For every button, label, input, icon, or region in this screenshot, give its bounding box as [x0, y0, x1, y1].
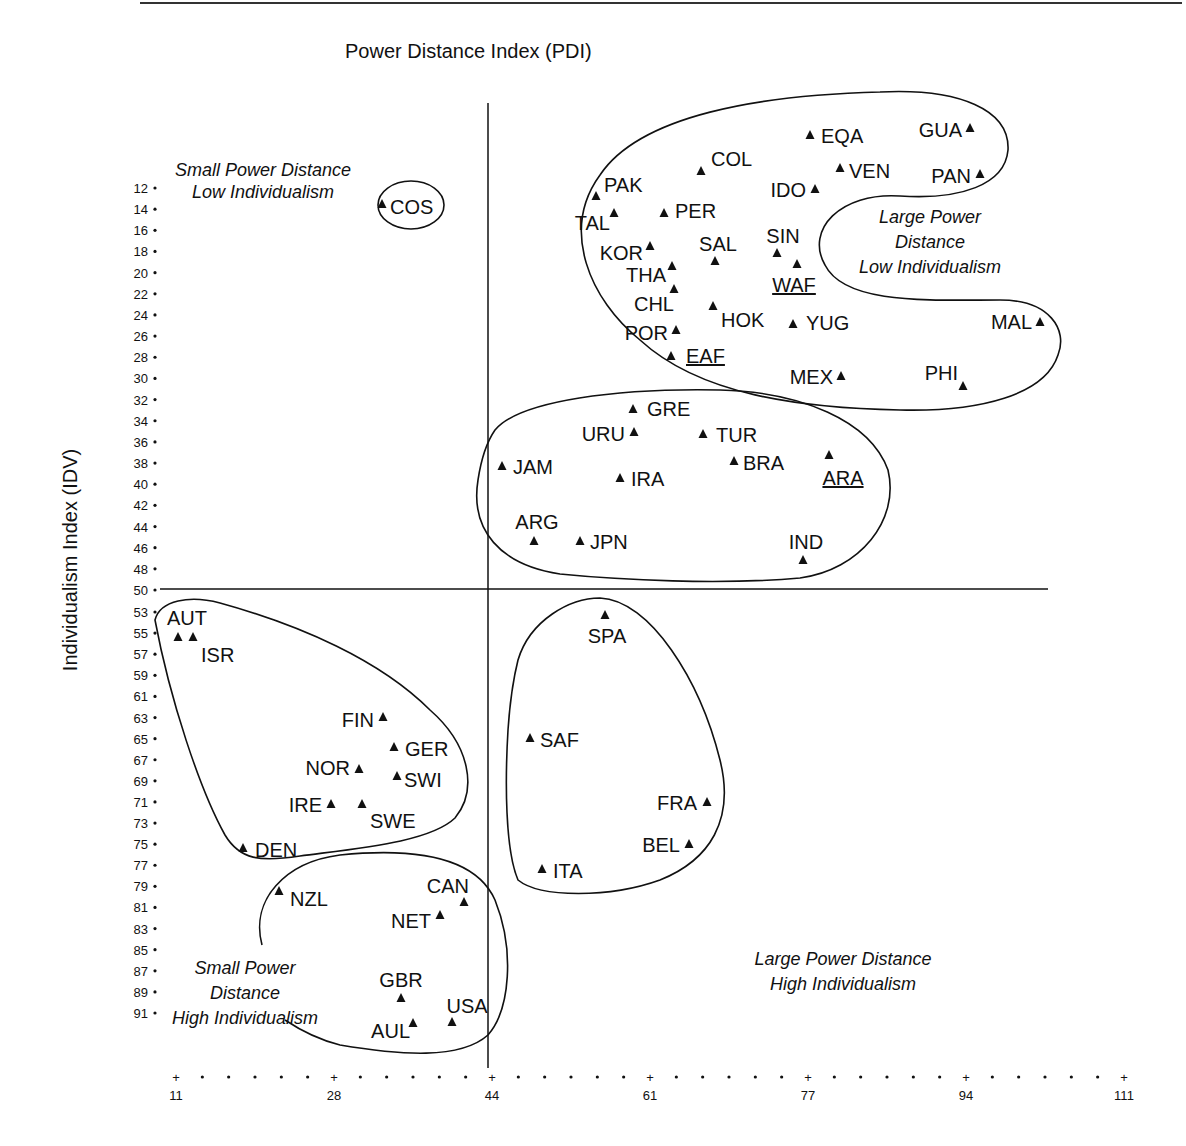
y-tick-label: 59: [134, 668, 148, 683]
y-tick-dot: [153, 335, 156, 338]
point-label: PAK: [604, 174, 643, 196]
point-label: KOR: [600, 242, 643, 264]
y-tick-label: 57: [134, 647, 148, 662]
y-tick-label: 77: [134, 858, 148, 873]
y-tick-dot: [153, 1011, 156, 1014]
y-tick-dot: [153, 440, 156, 443]
triangle-marker-icon: [836, 163, 845, 172]
data-point-spa: SPA: [588, 610, 627, 647]
triangle-marker-icon: [730, 456, 739, 465]
y-tick-dot: [153, 186, 156, 189]
y-tick-dot: [153, 885, 156, 888]
data-point-aul: AUL: [371, 1018, 417, 1042]
triangle-marker-icon: [660, 208, 669, 217]
triangle-marker-icon: [789, 319, 798, 328]
x-tick-dot: [701, 1075, 704, 1078]
data-point-uru: URU: [582, 423, 639, 445]
data-point-ido: IDO: [770, 179, 819, 201]
triangle-marker-icon: [498, 461, 507, 470]
point-label: ARG: [515, 511, 558, 533]
x-tick-label: 94: [959, 1088, 973, 1103]
y-tick-dot: [153, 398, 156, 401]
x-tick-dot: [727, 1075, 730, 1078]
triangle-marker-icon: [601, 610, 610, 619]
data-point-per: PER: [660, 200, 717, 222]
data-point-ita: ITA: [538, 860, 584, 882]
y-tick-label: 73: [134, 816, 148, 831]
point-label: FRA: [657, 792, 698, 814]
data-point-fra: FRA: [657, 792, 712, 814]
triangle-marker-icon: [174, 632, 183, 641]
triangle-marker-icon: [630, 427, 639, 436]
y-tick-label: 26: [134, 329, 148, 344]
y-tick-dot: [153, 461, 156, 464]
y-tick-label: 28: [134, 350, 148, 365]
data-point-ven: VEN: [836, 160, 891, 182]
point-label: TAL: [575, 212, 610, 234]
y-tick-label: 48: [134, 562, 148, 577]
point-label: SWI: [404, 769, 442, 791]
y-tick-label: 75: [134, 837, 148, 852]
point-label: CAN: [427, 875, 469, 897]
y-tick-label: 67: [134, 753, 148, 768]
y-tick-dot: [153, 313, 156, 316]
point-label: JAM: [513, 456, 553, 478]
x-tick-dot: [675, 1075, 678, 1078]
triangle-marker-icon: [806, 130, 815, 139]
x-tick-dot: [438, 1075, 441, 1078]
y-tick-label: 36: [134, 435, 148, 450]
x-tick-dot: [991, 1075, 994, 1078]
triangle-marker-icon: [526, 733, 535, 742]
x-tick-plus: +: [330, 1070, 338, 1085]
x-tick-plus: +: [804, 1070, 812, 1085]
triangle-marker-icon: [576, 536, 585, 545]
triangle-marker-icon: [358, 799, 367, 808]
y-tick-label: 40: [134, 477, 148, 492]
data-point-swe: SWE: [358, 799, 416, 832]
x-tick-dot: [517, 1075, 520, 1078]
triangle-marker-icon: [646, 241, 655, 250]
data-point-mal: MAL: [991, 311, 1045, 333]
triangle-marker-icon: [1036, 317, 1045, 326]
point-label: EQA: [821, 125, 864, 147]
point-label: EAF: [686, 345, 725, 367]
y-tick-dot: [153, 674, 156, 677]
x-tick-label: 111: [1114, 1088, 1134, 1103]
data-point-nzl: NZL: [275, 886, 328, 910]
x-tick-dot: [938, 1075, 941, 1078]
point-label: FIN: [342, 709, 374, 731]
data-point-sal: SAL: [699, 233, 737, 265]
y-tick-label: 91: [134, 1006, 148, 1021]
point-label: YUG: [806, 312, 849, 334]
x-tick-plus: +: [1120, 1070, 1128, 1085]
x-tick-plus: +: [488, 1070, 496, 1085]
y-tick-dot: [153, 632, 156, 635]
y-tick-label: 14: [134, 202, 148, 217]
point-label: ISR: [201, 644, 234, 666]
y-tick-label: 24: [134, 308, 148, 323]
x-tick-dot: [1096, 1075, 1099, 1078]
triangle-marker-icon: [793, 259, 802, 268]
triangle-marker-icon: [538, 864, 547, 873]
triangle-marker-icon: [275, 886, 284, 895]
triangle-marker-icon: [699, 429, 708, 438]
point-label: URU: [582, 423, 625, 445]
y-tick-label: 83: [134, 922, 148, 937]
y-tick-label: 87: [134, 964, 148, 979]
triangle-marker-icon: [610, 208, 619, 217]
y-tick-dot: [153, 525, 156, 528]
data-point-ger: GER: [390, 738, 449, 760]
quadrant-label-large-pd-high-idv: Large Power DistanceHigh Individualism: [754, 949, 931, 994]
data-point-usa: USA: [446, 995, 488, 1026]
point-label: WAF: [772, 274, 816, 296]
point-label: SIN: [766, 225, 799, 247]
triangle-marker-icon: [703, 797, 712, 806]
y-tick-dot: [153, 504, 156, 507]
point-label: NZL: [290, 888, 328, 910]
triangle-marker-icon: [616, 473, 625, 482]
y-tick-dot: [153, 948, 156, 951]
y-tick-dot: [153, 653, 156, 656]
triangle-marker-icon: [976, 169, 985, 178]
data-point-gua: GUA: [919, 119, 975, 141]
point-label: ARA: [822, 467, 864, 489]
